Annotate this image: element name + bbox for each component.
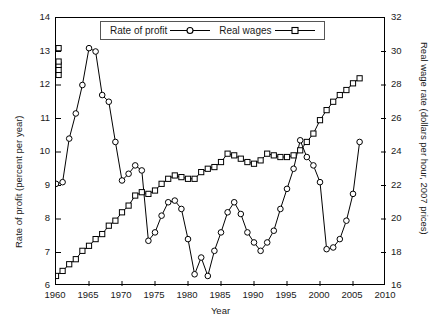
legend-item-real-wages: Real wages [219,25,314,36]
circle-marker-icon [170,25,210,36]
y-right-tick-label: 30 [391,46,417,56]
y-left-tick-label: 10 [24,146,50,156]
y-left-tick-label: 8 [24,213,50,223]
y-left-tick-label: 11 [24,113,50,123]
y-right-tick-label: 32 [391,12,417,22]
legend-label-rate-of-profit: Rate of profit [110,26,167,36]
y-axis-left-title: Rate of profit (percent per year) [13,115,24,248]
y-left-tick-label: 9 [24,180,50,190]
x-axis-title: Year [0,305,441,316]
legend-item-rate-of-profit: Rate of profit [110,25,210,36]
series-canvas [56,18,386,286]
chart-figure: Rate of profit Real wages 67891011121314… [0,0,441,327]
x-tick-label: 2010 [365,290,405,300]
y-right-tick-label: 26 [391,113,417,123]
y-right-tick-label: 28 [391,79,417,89]
y-right-tick-label: 22 [391,180,417,190]
y-left-tick-label: 14 [24,12,50,22]
y-right-tick-label: 20 [391,213,417,223]
y-left-tick-label: 13 [24,46,50,56]
y-left-tick-label: 7 [24,247,50,257]
y-right-tick-label: 24 [391,146,417,156]
legend-label-real-wages: Real wages [219,26,271,36]
y-left-tick-label: 12 [24,79,50,89]
square-marker-icon [275,25,315,36]
y-axis-right-title: Real wage rate (dollars per hour, 2007 p… [419,42,430,235]
y-right-tick-label: 18 [391,247,417,257]
plot-area [55,17,385,285]
chart-legend: Rate of profit Real wages [100,21,325,40]
